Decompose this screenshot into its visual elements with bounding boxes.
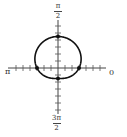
label-3pi-over-2: 3π 2 bbox=[52, 115, 61, 132]
label-pi-over-2-numerator: π bbox=[56, 3, 61, 10]
label-zero: 0 bbox=[109, 69, 114, 77]
key-point-dot bbox=[56, 35, 60, 39]
key-point-dot bbox=[35, 66, 39, 70]
key-point-dot bbox=[77, 66, 81, 70]
polar-graph bbox=[0, 0, 127, 137]
label-pi-over-2-denominator: 2 bbox=[56, 13, 60, 20]
label-pi-over-2: π 2 bbox=[54, 3, 62, 20]
label-3pi-over-2-denominator: 2 bbox=[54, 125, 58, 132]
label-pi: π bbox=[5, 68, 10, 76]
key-point-dot bbox=[56, 77, 60, 81]
label-3pi-over-2-numerator: 3π bbox=[52, 115, 61, 122]
